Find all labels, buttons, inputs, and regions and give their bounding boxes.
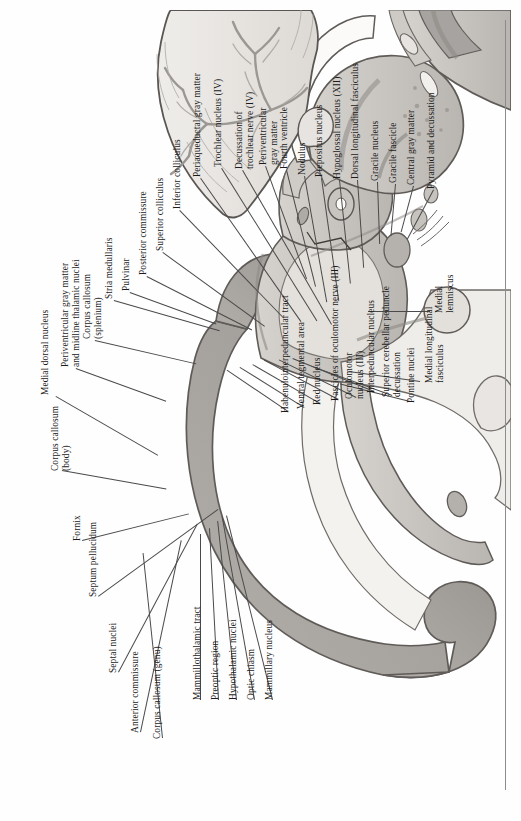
label-central-gray-matter: Central gray matter xyxy=(406,110,417,185)
label-hypoglossal-nucleus-xii: Hypoglossal nucleus (XII) xyxy=(332,77,343,179)
label-preoptic-region: Preoptic region xyxy=(210,641,221,700)
page-margin-rule xyxy=(505,20,506,790)
label-corpus-callosum-genu: Corpus callosum (genu) xyxy=(152,646,163,739)
label-red-nucleus: Red nucleus xyxy=(312,358,323,405)
label-trochlear-nucleus-iv: Trochlear nucleus (IV) xyxy=(213,79,224,167)
label-oculomotor-nucleus-iii: Oculomotor nucleus (III) xyxy=(344,351,365,399)
label-medial-longitudinal-fasciculus: Medial longitudinal fasciculus xyxy=(424,307,445,384)
label-pyramid-and-decussation: Pyramid and decussation xyxy=(426,93,437,190)
label-corpus-callosum-body: Corpus callosum (body) xyxy=(50,406,71,471)
label-interpeduncular-nucleus: Interpeduncular nucleus xyxy=(366,300,377,393)
label-periventricular-gray-matter: Periventricular gray matter xyxy=(258,107,279,165)
label-fourth-ventricle: Fourth ventricle xyxy=(279,107,290,169)
label-nodulus: Nodulus xyxy=(297,142,308,175)
label-fornix: Fornix xyxy=(72,515,83,541)
label-anterior-commissure: Anterior commissure xyxy=(130,651,141,733)
label-medial-dorsal-nucleus: Medial dorsal nucleus xyxy=(40,310,51,395)
label-ventral-tegmental-area: Ventral tegmental area xyxy=(296,322,307,409)
label-decussation-of-trochlear-nerve-iv: Decussation of trochlear nerve (IV) xyxy=(234,92,255,169)
label-septal-nuclei: Septal nuclei xyxy=(108,623,119,673)
label-corpus-callosum-splenium: Corpus callosum (splenium) xyxy=(82,274,103,339)
label-optic-chiasm: Optic chiasm xyxy=(246,649,257,700)
label-prepositus-nucleus: Prepositus nucleus xyxy=(314,105,325,177)
anatomical-plate: Medial dorsal nucleus Periventricular gr… xyxy=(0,0,521,821)
label-fascicles-of-oculomotor-nerve-iii: Fascicles of oculomotor nerve (III) xyxy=(330,266,341,401)
label-superior-cerebellar-peduncle-decussation: Superior cerebellar peduncle decussation xyxy=(381,286,402,397)
label-stria-medullaris: Stria medullaris xyxy=(104,237,115,299)
label-periaqueductal-gray-matter: Periaqueductal gray matter xyxy=(192,73,203,177)
label-periventricular-gray-matter-midline-thalamic-nuclei: Periventricular gray matter and midline … xyxy=(60,259,81,367)
label-gracile-nucleus: Gracile nucleus xyxy=(370,121,381,181)
label-pontine-nuclei: Pontine nuclei xyxy=(406,347,417,403)
label-hypothalamic-nuclei: Hypothalamic nuclei xyxy=(228,619,239,700)
label-mammillary-nucleus: Mammillary nucleus xyxy=(264,620,275,700)
anterior-commissure-shape xyxy=(444,489,470,520)
label-habenulointerpeduncular-tract: Habenulointerpeduncular tract xyxy=(280,295,291,413)
label-inferior-colliculus: Inferior colliculus xyxy=(172,139,183,209)
label-superior-colliculus: Superior colliculus xyxy=(155,178,166,251)
label-septum-pellucidum: Septum pellucidum xyxy=(88,522,99,597)
label-gracile-fascicle: Gracile fascicle xyxy=(388,123,399,183)
label-posterior-commissure: Posterior commissure xyxy=(138,191,149,275)
label-pulvinar: Pulvinar xyxy=(121,258,132,291)
label-dorsal-longitudinal-fasciculus: Dorsal longitudinal fasciculus xyxy=(350,63,361,179)
label-mammillothalamic-tract: Mammillothalamic tract xyxy=(192,607,203,701)
